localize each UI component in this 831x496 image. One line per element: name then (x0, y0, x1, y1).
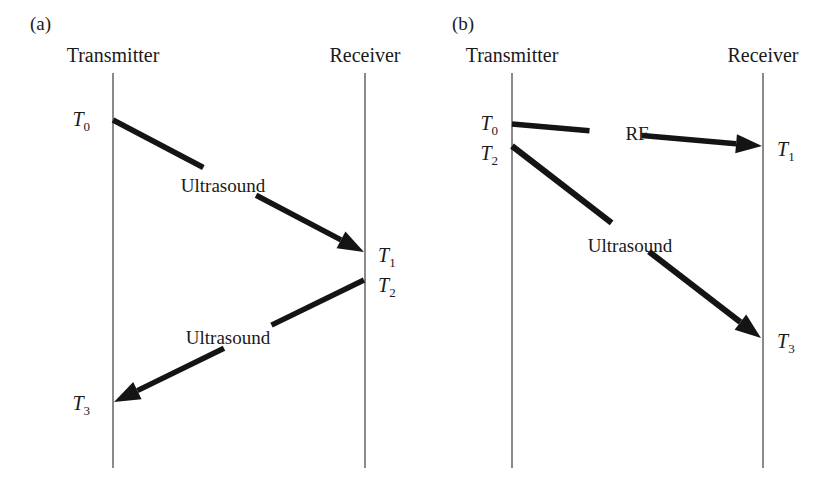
time-marker-subscript: 1 (389, 255, 396, 270)
time-marker-T2-0: T2 (378, 274, 396, 300)
ray-segment-0-0b (256, 195, 341, 240)
ray-segment-0-1b (137, 348, 224, 390)
time-marker-subscript: 2 (389, 285, 396, 300)
transmitter-label-1: Transmitter (466, 44, 559, 66)
ray-label-1-1: Ultrasound (588, 235, 673, 256)
time-marker-subscript: 3 (788, 341, 795, 356)
time-marker-T2-1: T2 (480, 142, 498, 168)
ray-arrowhead-0-1 (114, 382, 142, 402)
ray-label-0-1: Ultrasound (186, 327, 271, 348)
time-marker-subscript: 1 (788, 149, 795, 164)
ray-label-1-0: RF (625, 123, 648, 144)
time-marker-T0-1: T0 (480, 112, 498, 138)
panel-tag-0: (a) (30, 13, 51, 35)
ray-segment-1-1a (512, 146, 612, 223)
ray-segment-1-0a (512, 124, 590, 131)
figure-root: (a)TransmitterReceiverUltrasoundUltrasou… (0, 0, 831, 496)
transmitter-label-0: Transmitter (67, 44, 160, 66)
ray-segment-1-1b (649, 252, 740, 323)
time-marker-subscript: 2 (492, 153, 499, 168)
panel-tag-1: (b) (452, 13, 474, 35)
ray-arrowhead-0-0 (337, 231, 364, 252)
time-marker-T0-0: T0 (72, 108, 90, 134)
time-marker-subscript: 0 (492, 123, 499, 138)
ray-segment-1-0b (642, 135, 736, 143)
ray-label-0-0: Ultrasound (181, 175, 266, 196)
time-marker-T1-1: T1 (777, 138, 795, 164)
ray-segment-0-0a (113, 120, 203, 168)
timing-diagram-svg: (a)TransmitterReceiverUltrasoundUltrasou… (0, 0, 831, 496)
time-marker-subscript: 0 (84, 119, 91, 134)
ray-segment-0-1a (272, 280, 365, 325)
ray-arrowhead-1-0 (735, 134, 762, 153)
receiver-label-0: Receiver (329, 44, 400, 66)
time-marker-subscript: 3 (84, 403, 91, 418)
time-marker-T3-1: T3 (777, 330, 795, 356)
receiver-label-1: Receiver (727, 44, 798, 66)
time-marker-T1-0: T1 (378, 244, 396, 270)
time-marker-T3-0: T3 (72, 392, 90, 418)
